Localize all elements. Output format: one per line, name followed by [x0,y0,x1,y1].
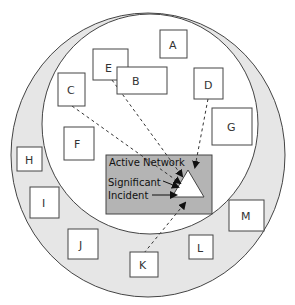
node-d: D [194,68,223,99]
svg-text:D: D [204,79,212,92]
node-i: I [30,187,59,218]
node-f: F [64,127,94,160]
incident-network-diagram: Active Network Significant Incident A E … [0,0,295,305]
svg-text:J: J [78,239,82,252]
node-g: G [212,108,252,145]
node-h: H [17,147,42,171]
svg-text:G: G [227,121,236,134]
svg-text:K: K [139,259,147,272]
svg-text:I: I [42,197,45,210]
svg-text:A: A [169,39,177,52]
svg-text:F: F [74,138,80,151]
node-a: A [160,30,187,58]
node-c: C [58,73,85,106]
node-k: K [130,252,158,277]
active-network-label: Active Network [109,157,185,168]
node-j: J [68,229,98,259]
svg-text:B: B [132,75,140,88]
svg-text:L: L [197,242,204,255]
svg-text:M: M [241,210,251,223]
incident-label: Incident [108,190,148,201]
svg-text:H: H [25,154,33,167]
node-b: B [117,67,167,94]
svg-text:E: E [105,62,112,75]
significant-label: Significant [108,177,161,188]
active-network-box: Active Network Significant Incident [106,155,212,214]
svg-text:C: C [67,84,75,97]
node-m: M [229,200,264,231]
node-l: L [189,235,213,259]
